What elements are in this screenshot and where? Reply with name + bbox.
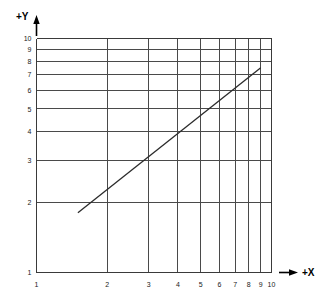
log-log-chart: 1234567891012345678910+Y+X (0, 0, 322, 301)
y-tick-label-2: 2 (28, 199, 32, 206)
y-tick-label-6: 6 (28, 87, 32, 94)
x-tick-label-6: 6 (217, 281, 221, 288)
x-tick-label-1: 1 (35, 281, 39, 288)
chart-canvas: 1234567891012345678910+Y+X (0, 0, 322, 301)
plot-background (37, 39, 272, 273)
x-tick-label-5: 5 (199, 281, 203, 288)
x-tick-label-4: 4 (176, 281, 180, 288)
x-axis-name: +X (302, 267, 315, 278)
y-tick-label-7: 7 (28, 71, 32, 78)
y-tick-label-5: 5 (28, 106, 32, 113)
x-tick-label-10: 10 (268, 281, 276, 288)
y-tick-label-10: 10 (24, 35, 32, 42)
x-tick-label-7: 7 (233, 281, 237, 288)
y-tick-label-1: 1 (28, 269, 32, 276)
x-tick-label-8: 8 (247, 281, 251, 288)
x-tick-label-2: 2 (105, 281, 109, 288)
plot-area (37, 39, 272, 273)
y-tick-label-3: 3 (28, 157, 32, 164)
x-tick-label-3: 3 (147, 281, 151, 288)
x-tick-label-9: 9 (259, 281, 263, 288)
y-tick-label-8: 8 (28, 58, 32, 65)
y-axis-name: +Y (16, 11, 29, 22)
y-tick-label-9: 9 (28, 46, 32, 53)
y-tick-label-4: 4 (28, 128, 32, 135)
